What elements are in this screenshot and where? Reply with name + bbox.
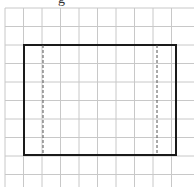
background-grid — [5, 8, 194, 187]
grid-diagram — [0, 0, 194, 187]
